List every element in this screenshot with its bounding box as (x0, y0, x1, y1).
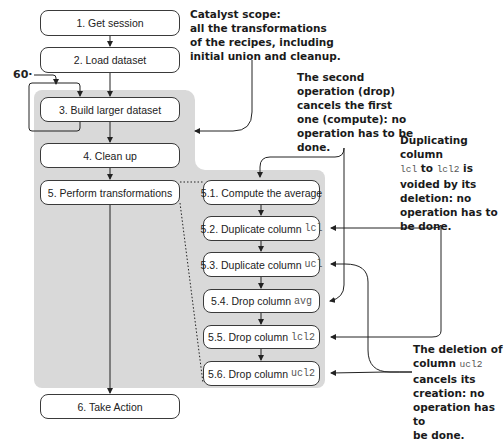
substep-code: ucl2 (291, 368, 315, 379)
substep-code: ucl (304, 259, 322, 270)
step-label: 6. Take Action (77, 401, 142, 413)
annotation-catalyst-scope: Catalyst scope: all the transformations … (190, 7, 341, 63)
substep-text: 5.6. Drop column (208, 368, 291, 380)
substep-drop-ucl2: 5.6. Drop column ucl2 (203, 361, 320, 386)
substep-drop-avg: 5.4. Drop column avg (203, 289, 320, 313)
substep-text: 5.3. Duplicate column (201, 259, 305, 271)
substep-code: lcl (304, 223, 322, 234)
substep-text: 5.2. Duplicate column (201, 223, 305, 235)
step-load-dataset: 2. Load dataset (40, 47, 180, 73)
step-take-action: 6. Take Action (40, 394, 180, 419)
substep-compute-average: 5.1. Compute the average (203, 180, 320, 205)
step-label: 2. Load dataset (74, 54, 146, 66)
step-label: 3. Build larger dataset (59, 104, 161, 116)
substep-drop-lcl2: 5.5. Drop column lcl2 (203, 325, 320, 349)
step-label: 4. Clean up (83, 150, 137, 162)
step-label: 1. Get session (76, 17, 143, 29)
substep-duplicate-ucl: 5.3. Duplicate column ucl (203, 252, 320, 277)
substep-code: avg (294, 296, 312, 307)
substep-text: 5.5. Drop column (208, 331, 291, 343)
step-get-session: 1. Get session (40, 10, 180, 36)
annotation-duplicate-voided: Duplicating column lcl to lcl2 is voided… (400, 133, 504, 233)
substep-text: 5.4. Drop column (211, 295, 294, 307)
substep-code: lcl2 (291, 332, 315, 343)
step-perform-transformations: 5. Perform transformations (40, 180, 180, 205)
substep-duplicate-lcl: 5.2. Duplicate column lcl (203, 216, 320, 241)
step-clean-up: 4. Clean up (40, 143, 180, 168)
step-build-larger-dataset: 3. Build larger dataset (40, 97, 180, 122)
annotation-drop-cancels-compute: The second operation (drop) cancels the … (297, 70, 413, 154)
step-label: 5. Perform transformations (48, 187, 172, 199)
annotation-deletion-cancels-creation: The deletion of column ucl2 cancels its … (413, 342, 504, 442)
substep-text: 5.1. Compute the average (201, 187, 322, 199)
loop-count-label: 60· (13, 68, 33, 81)
